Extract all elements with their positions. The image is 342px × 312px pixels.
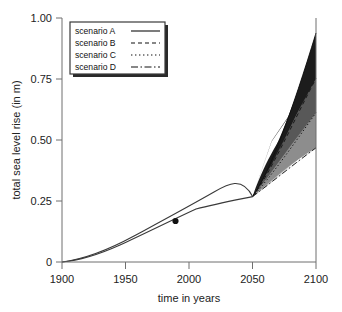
x-axis-ticks [62, 262, 316, 269]
legend-label-scenario-b: scenario B [75, 38, 116, 48]
y-tick-label-1: 0.25 [31, 195, 52, 207]
x-tick-label-1: 1950 [113, 273, 137, 285]
x-tick-label-4: 2100 [304, 273, 328, 285]
legend-label-scenario-d: scenario D [75, 62, 116, 72]
x-tick-label-2: 2000 [177, 273, 201, 285]
y-tick-label-2: 0.50 [31, 134, 52, 146]
y-tick-label-3: 0.75 [31, 73, 52, 85]
x-tick-label-3: 2050 [240, 273, 264, 285]
legend-label-scenario-c: scenario C [75, 50, 116, 60]
x-axis-title: time in years [158, 292, 221, 304]
chart-canvas: 1.00 0.75 0.50 0.25 0 1900 1950 2000 205… [0, 0, 342, 312]
legend-label-scenario-a: scenario A [75, 26, 115, 36]
sea-level-rise-chart: 1.00 0.75 0.50 0.25 0 1900 1950 2000 205… [0, 0, 342, 312]
y-axis-ticks [56, 18, 62, 262]
x-tick-label-0: 1900 [50, 273, 74, 285]
legend[interactable]: scenario A scenario B scenario C scenari… [70, 22, 168, 77]
y-axis-title: total sea level rise (in m) [10, 80, 22, 199]
y-tick-label-4: 1.00 [31, 12, 52, 24]
y-tick-label-0: 0 [46, 256, 52, 268]
observation-marker-icon [172, 218, 178, 224]
